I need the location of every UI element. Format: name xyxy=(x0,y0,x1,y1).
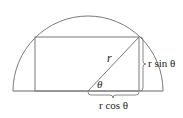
semicircle-rectangle-diagram: r θ r sin θ r cos θ xyxy=(0,0,183,118)
angle-label: θ xyxy=(97,78,103,90)
radius-line xyxy=(88,37,139,91)
height-label: r sin θ xyxy=(148,57,175,69)
radius-label: r xyxy=(107,51,112,65)
inscribed-rectangle xyxy=(35,37,139,91)
width-brace xyxy=(88,92,139,98)
height-brace xyxy=(140,37,146,91)
half-width-label: r cos θ xyxy=(99,99,128,111)
